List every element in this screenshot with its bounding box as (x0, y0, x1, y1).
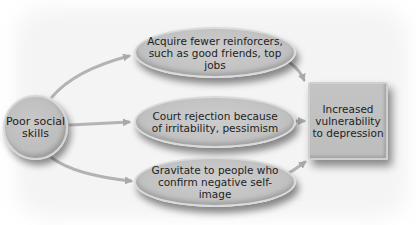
arrow-reinforcers-to-vulnerability (290, 63, 304, 80)
node-label: Poor social skills (5, 116, 66, 140)
node-fewer-reinforcers: Acquire fewer reinforcers, such as good … (134, 27, 296, 78)
node-label: Increased vulnerability to depression (310, 103, 386, 139)
node-label: Gravitate to people who confirm negative… (146, 164, 284, 200)
node-label: Acquire fewer reinforcers, such as good … (146, 35, 284, 71)
node-gravitate-negative: Gravitate to people who confirm negative… (134, 157, 296, 207)
node-court-rejection: Court rejection because of irritability,… (134, 96, 296, 148)
node-poor-social-skills: Poor social skills (3, 95, 68, 160)
node-label: Court rejection because of irritability,… (146, 110, 284, 134)
diagram-canvas: Poor social skills Acquire fewer reinfor… (0, 0, 416, 225)
arrow-skills-to-reinforcers (52, 56, 129, 97)
arrow-skills-to-rejection (70, 122, 129, 125)
node-increased-vulnerability: Increased vulnerability to depression (308, 82, 388, 160)
arrow-skills-to-gravitate (52, 158, 131, 181)
